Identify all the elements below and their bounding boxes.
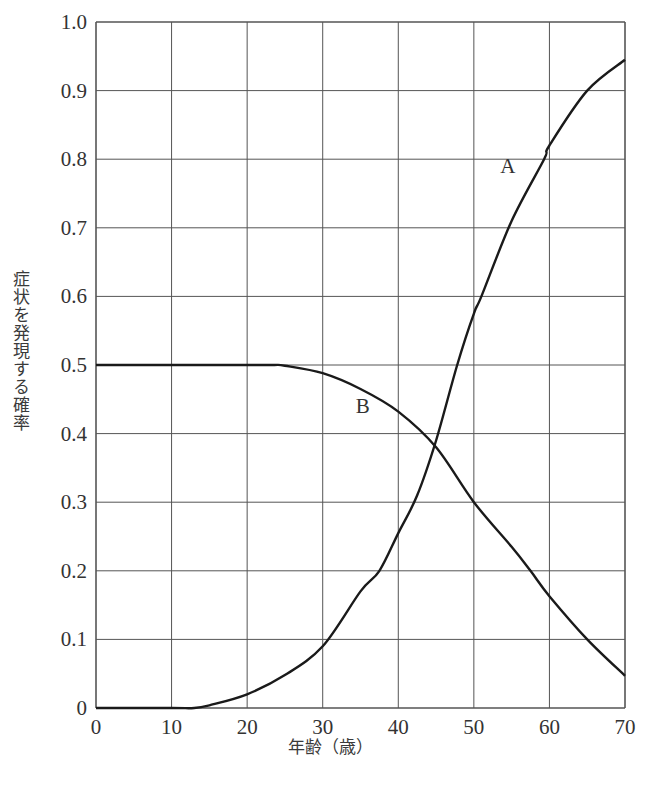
y-axis-label: 症状を発現する確率 [8,270,30,432]
y-tick-label: 0.7 [61,216,87,240]
chart-plot-area: 01020304050607000.10.20.30.40.50.60.70.8… [0,0,645,787]
y-tick-label: 0.4 [61,422,88,446]
series-labels: AB [356,154,517,418]
y-tick-label: 0.6 [61,284,87,308]
series-label-b: B [356,394,370,418]
y-tick-label: 0 [77,696,88,720]
y-tick-label: 0.5 [61,353,87,377]
x-tick-label: 0 [91,715,102,739]
x-tick-label: 60 [539,715,560,739]
y-tick-label: 1.0 [61,10,87,34]
y-tick-label: 0.8 [61,147,87,171]
y-tick-label: 0.1 [61,627,87,651]
y-tick-label: 0.3 [61,490,87,514]
x-axis-label: 年齢（歳） [250,733,410,758]
curve-a [96,60,625,709]
truncated-caption [40,777,620,787]
y-tick-label: 0.9 [61,79,87,103]
x-tick-label: 70 [615,715,636,739]
x-tick-label: 10 [161,715,182,739]
x-tick-label: 50 [463,715,484,739]
y-tick-label: 0.2 [61,559,87,583]
data-series [96,60,625,709]
series-label-a: A [500,154,516,178]
